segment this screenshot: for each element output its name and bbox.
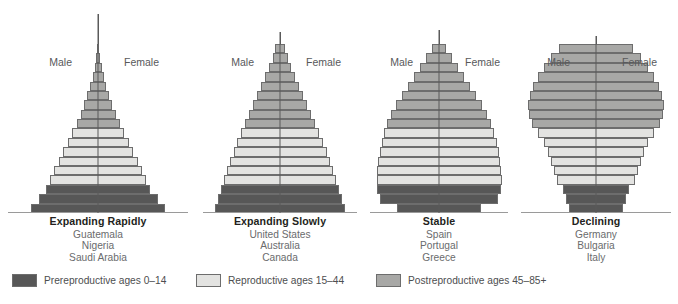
legend-label: Reproductive ages 15–44 — [228, 275, 344, 286]
age-band-bar-reproductive — [50, 175, 146, 184]
age-band-bar-reproductive — [224, 175, 336, 184]
age-band-bar-reproductive — [227, 166, 333, 175]
age-band-bar-postreproductive — [426, 53, 452, 62]
age-band-bar-prereproductive — [46, 185, 150, 194]
age-band-bar-postreproductive — [551, 53, 641, 62]
age-band-bar-postreproductive — [544, 63, 648, 72]
age-band-bar-prereproductive — [380, 194, 498, 203]
panel-caption: Expanding RapidlyGuatemalaNigeriaSaudi A… — [0, 216, 196, 268]
age-band-bar-postreproductive — [420, 63, 458, 72]
age-band-bar-reproductive — [544, 138, 648, 147]
legend-swatch — [376, 274, 401, 287]
age-band-bar-postreproductive — [95, 63, 102, 72]
panel-caption: StableSpainPortugalGreece — [364, 216, 514, 268]
baseline-rule — [521, 212, 672, 213]
age-band-bar-reproductive — [380, 147, 499, 156]
chart-legend: Prereproductive ages 0–14Reproductive ag… — [0, 274, 678, 296]
age-band-bar-reproductive — [68, 138, 129, 147]
pyramid-bar-stack — [364, 30, 514, 213]
pyramid-panel: MaleFemale — [364, 0, 514, 213]
country-name: Bulgaria — [514, 240, 678, 252]
age-band-bar-postreproductive — [253, 100, 307, 109]
pyramid-panel: MaleFemale — [0, 0, 196, 213]
panel-title: Stable — [364, 216, 514, 228]
country-name: Germany — [514, 229, 678, 241]
baseline-rule — [8, 212, 188, 213]
age-band-bar-prereproductive — [563, 185, 629, 194]
age-band-bar-postreproductive — [84, 100, 112, 109]
age-band-bar-postreproductive — [96, 53, 100, 62]
country-name: Canada — [196, 252, 364, 264]
age-band-bar-postreproductive — [261, 82, 299, 91]
country-name: Portugal — [364, 240, 514, 252]
country-name: Greece — [364, 252, 514, 264]
age-band-bar-reproductive — [59, 157, 138, 166]
age-band-bar-prereproductive — [39, 194, 158, 203]
age-band-bar-postreproductive — [249, 110, 311, 119]
age-band-bar-postreproductive — [90, 82, 106, 91]
country-name: Italy — [514, 252, 678, 264]
age-band-bar-postreproductive — [432, 44, 446, 53]
age-band-bar-reproductive — [382, 138, 497, 147]
age-band-bar-postreproductive — [538, 72, 654, 81]
age-band-bar-reproductive — [557, 175, 635, 184]
age-band-bar-reproductive — [237, 138, 323, 147]
pyramid-panels: MaleFemaleMaleFemaleMaleFemaleMaleFemale — [0, 0, 678, 213]
pyramid-panel: MaleFemale — [196, 0, 364, 213]
panel-caption: DecliningGermanyBulgariaItaly — [514, 216, 678, 268]
pyramid-panel: MaleFemale — [514, 0, 678, 213]
age-band-bar-postreproductive — [87, 91, 109, 100]
age-band-bar-postreproductive — [81, 110, 116, 119]
age-band-bar-reproductive — [234, 147, 327, 156]
panel-title: Expanding Slowly — [196, 216, 364, 228]
age-band-bar-postreproductive — [396, 100, 482, 109]
age-band-bar-postreproductive — [532, 119, 660, 128]
panel-caption: Expanding SlowlyUnited StatesAustraliaCa… — [196, 216, 364, 268]
legend-label: Postreproductive ages 45–85+ — [408, 275, 546, 286]
country-name: Guatemala — [0, 229, 196, 241]
country-name: Spain — [364, 229, 514, 241]
age-band-bar-reproductive — [548, 147, 644, 156]
age-band-bar-postreproductive — [265, 72, 295, 81]
baseline-rule — [203, 212, 358, 213]
country-name: United States — [196, 229, 364, 241]
age-band-bar-reproductive — [377, 175, 502, 184]
legend-swatch — [196, 274, 221, 287]
legend-item: Postreproductive ages 45–85+ — [376, 274, 546, 287]
age-band-bar-postreproductive — [559, 44, 633, 53]
age-band-bar-postreproductive — [257, 91, 303, 100]
pyramid-bar-stack — [196, 32, 364, 213]
age-band-bar-reproductive — [554, 166, 638, 175]
age-band-bar-reproductive — [230, 157, 330, 166]
age-band-bar-postreproductive — [530, 91, 662, 100]
age-band-bar-reproductive — [377, 166, 501, 175]
panel-captions: Expanding RapidlyGuatemalaNigeriaSaudi A… — [0, 216, 678, 268]
axis-spike — [280, 32, 281, 44]
panel-title: Declining — [514, 216, 678, 228]
age-band-bar-postreproductive — [528, 100, 664, 109]
age-band-bar-postreproductive — [408, 82, 470, 91]
country-name: Saudi Arabia — [0, 252, 196, 264]
legend-label: Prereproductive ages 0–14 — [44, 275, 166, 286]
axis-spike — [439, 30, 440, 44]
country-name: Australia — [196, 240, 364, 252]
age-band-bar-postreproductive — [387, 119, 491, 128]
baseline-rule — [370, 212, 508, 213]
age-band-bar-postreproductive — [533, 82, 659, 91]
age-band-bar-reproductive — [538, 128, 654, 137]
age-band-bar-postreproductive — [391, 110, 487, 119]
age-band-bar-reproductive — [54, 166, 142, 175]
pyramid-bar-stack — [514, 36, 678, 213]
legend-swatch — [12, 274, 37, 287]
age-band-bar-reproductive — [384, 128, 494, 137]
population-pyramid-figure: MaleFemaleMaleFemaleMaleFemaleMaleFemale… — [0, 0, 678, 304]
age-band-bar-postreproductive — [77, 119, 120, 128]
age-band-bar-postreproductive — [273, 53, 288, 62]
age-band-bar-postreproductive — [269, 63, 291, 72]
age-band-bar-prereproductive — [218, 194, 342, 203]
axis-spike — [596, 36, 597, 44]
age-band-bar-prereproductive — [221, 185, 339, 194]
age-band-bar-postreproductive — [245, 119, 315, 128]
panel-title: Expanding Rapidly — [0, 216, 196, 228]
age-band-bar-reproductive — [72, 128, 124, 137]
